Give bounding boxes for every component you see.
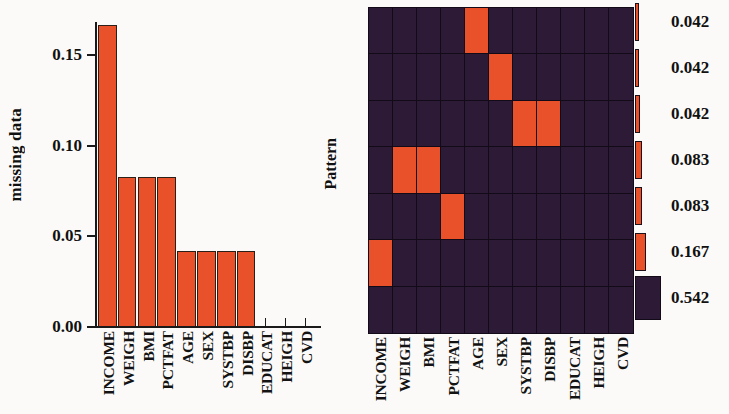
heatmap-cell-present[interactable] <box>609 8 633 54</box>
heatmap-cell-present[interactable] <box>489 147 513 193</box>
heatmap-cell-present[interactable] <box>393 194 417 240</box>
heatmap-cell-present[interactable] <box>393 8 417 54</box>
heatmap-cell-present[interactable] <box>561 240 585 286</box>
heatmap-cell-present[interactable] <box>609 147 633 193</box>
heatmap-cell-present[interactable] <box>441 240 465 286</box>
bar-x-axis-label: SYSTBP <box>219 331 237 388</box>
y-axis-tick-label: 0.05 <box>52 226 82 246</box>
heatmap-cell-present[interactable] <box>465 194 489 240</box>
heatmap-cell-present[interactable] <box>393 101 417 147</box>
bar-chart-x-axis-labels: INCOMEWEIGHBMIPCTFATAGESEXSYSTBPDISBPEDU… <box>98 331 320 414</box>
heatmap-cell-present[interactable] <box>369 101 393 147</box>
heatmap-cell-present[interactable] <box>489 240 513 286</box>
bar[interactable] <box>157 177 176 327</box>
heatmap-cell-missing[interactable] <box>513 101 537 147</box>
bar-chart-y-axis-title: missing data <box>6 108 26 202</box>
bar[interactable] <box>237 251 256 327</box>
heatmap-x-axis-label: SEX <box>493 337 511 367</box>
heatmap-cell-present[interactable] <box>585 194 609 240</box>
heatmap-cell-missing[interactable] <box>537 101 561 147</box>
heatmap-cell-present[interactable] <box>609 240 633 286</box>
bar[interactable] <box>98 25 117 328</box>
heatmap-cell-present[interactable] <box>537 240 561 286</box>
heatmap-cell-present[interactable] <box>369 8 393 54</box>
heatmap-cell-present[interactable] <box>441 8 465 54</box>
heatmap-cell-missing[interactable] <box>393 147 417 193</box>
heatmap-cell-present[interactable] <box>489 8 513 54</box>
heatmap-cell-present[interactable] <box>369 287 393 333</box>
heatmap-cell-present[interactable] <box>609 101 633 147</box>
bar[interactable] <box>197 251 216 327</box>
heatmap-cell-present[interactable] <box>561 147 585 193</box>
heatmap-cell-present[interactable] <box>393 54 417 100</box>
heatmap-cell-present[interactable] <box>561 287 585 333</box>
heatmap-cell-present[interactable] <box>537 147 561 193</box>
heatmap-cell-present[interactable] <box>441 101 465 147</box>
bar-chart-x-axis-line <box>95 326 321 328</box>
heatmap-cell-present[interactable] <box>441 147 465 193</box>
heatmap-cell-present[interactable] <box>585 147 609 193</box>
bar-slot <box>177 10 197 327</box>
legend-swatch <box>635 3 639 41</box>
bar[interactable] <box>118 177 137 327</box>
heatmap-cell-present[interactable] <box>561 194 585 240</box>
heatmap-cell-present[interactable] <box>537 194 561 240</box>
heatmap-cell-present[interactable] <box>393 240 417 286</box>
heatmap-cell-present[interactable] <box>393 287 417 333</box>
heatmap-cell-present[interactable] <box>585 240 609 286</box>
heatmap-cell-present[interactable] <box>417 8 441 54</box>
heatmap-cell-present[interactable] <box>369 54 393 100</box>
bar-x-axis-label: DISBP <box>239 331 257 376</box>
bar-slot <box>118 10 138 327</box>
heatmap-cell-present[interactable] <box>585 8 609 54</box>
heatmap-cell-present[interactable] <box>417 101 441 147</box>
bar[interactable] <box>138 177 157 327</box>
heatmap-cell-missing[interactable] <box>369 240 393 286</box>
heatmap-cell-present[interactable] <box>513 287 537 333</box>
heatmap-cell-present[interactable] <box>465 147 489 193</box>
heatmap-cell-present[interactable] <box>609 194 633 240</box>
heatmap-cell-present[interactable] <box>417 287 441 333</box>
heatmap-cell-present[interactable] <box>585 54 609 100</box>
heatmap-cell-present[interactable] <box>609 287 633 333</box>
heatmap-x-axis-label: INCOME <box>372 337 390 401</box>
heatmap-cell-present[interactable] <box>417 194 441 240</box>
heatmap-cell-present[interactable] <box>585 101 609 147</box>
heatmap-cell-present[interactable] <box>513 240 537 286</box>
heatmap-cell-present[interactable] <box>513 54 537 100</box>
heatmap-cell-present[interactable] <box>417 54 441 100</box>
heatmap-cell-missing[interactable] <box>489 54 513 100</box>
bar[interactable] <box>217 251 236 327</box>
heatmap-cell-present[interactable] <box>561 101 585 147</box>
heatmap-cell-present[interactable] <box>537 287 561 333</box>
heatmap-cell-present[interactable] <box>513 8 537 54</box>
missing-data-bar-chart-panel: missing data 0.000.050.100.15 INCOMEWEIG… <box>0 0 352 414</box>
heatmap-cell-present[interactable] <box>489 194 513 240</box>
heatmap-cell-present[interactable] <box>465 54 489 100</box>
heatmap-cell-present[interactable] <box>513 194 537 240</box>
heatmap-cell-present[interactable] <box>417 240 441 286</box>
heatmap-cell-present[interactable] <box>513 147 537 193</box>
heatmap-cell-missing[interactable] <box>417 147 441 193</box>
legend-label: 0.083 <box>671 196 709 216</box>
heatmap-cell-present[interactable] <box>465 240 489 286</box>
bar[interactable] <box>177 251 196 327</box>
heatmap-cell-present[interactable] <box>441 287 465 333</box>
heatmap-cell-present[interactable] <box>489 101 513 147</box>
heatmap-cell-missing[interactable] <box>465 8 489 54</box>
heatmap-cell-present[interactable] <box>561 54 585 100</box>
heatmap-cell-present[interactable] <box>369 147 393 193</box>
heatmap-cell-present[interactable] <box>441 54 465 100</box>
heatmap-cell-present[interactable] <box>537 8 561 54</box>
heatmap-cell-present[interactable] <box>609 54 633 100</box>
heatmap-cell-present[interactable] <box>585 287 609 333</box>
heatmap-cell-present[interactable] <box>465 287 489 333</box>
heatmap-cell-present[interactable] <box>369 194 393 240</box>
heatmap-cell-present[interactable] <box>489 287 513 333</box>
heatmap-cell-missing[interactable] <box>441 194 465 240</box>
legend-swatch <box>635 187 642 225</box>
heatmap-cell-present[interactable] <box>465 101 489 147</box>
heatmap-cell-present[interactable] <box>561 8 585 54</box>
bar-x-axis-label: SEX <box>199 331 217 361</box>
heatmap-cell-present[interactable] <box>537 54 561 100</box>
